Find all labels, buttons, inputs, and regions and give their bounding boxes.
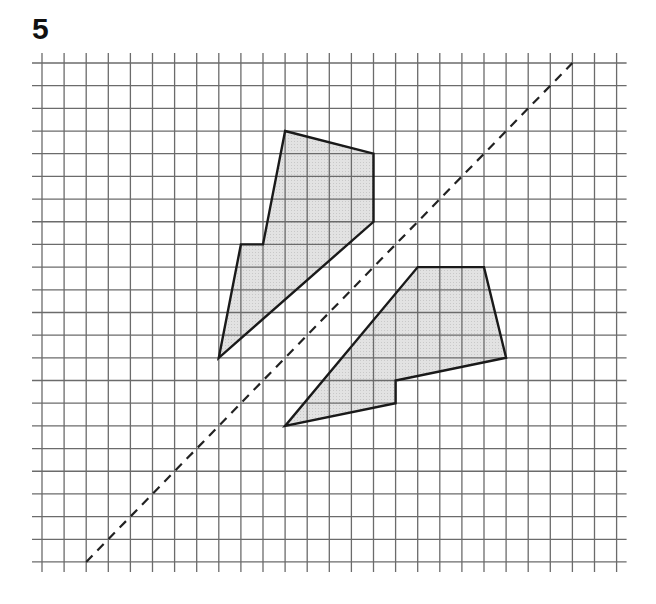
grid-lines (32, 53, 627, 572)
shape-fills (219, 131, 506, 426)
grid-diagram (0, 0, 656, 604)
